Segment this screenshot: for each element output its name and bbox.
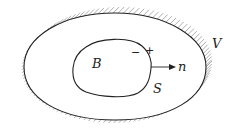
- hatch-line: [111, 7, 119, 15]
- hatch-line: [148, 111, 156, 119]
- hatch-line: [106, 7, 114, 15]
- hatch-line: [139, 113, 147, 121]
- hatch-line: [129, 114, 137, 122]
- label-B: B: [91, 56, 102, 71]
- hatch-line: [91, 9, 99, 17]
- label-S: S: [153, 81, 162, 96]
- hatch-line: [114, 115, 122, 123]
- plus-sign: +: [145, 44, 154, 57]
- label-n: n: [178, 59, 186, 74]
- hatch-line: [124, 115, 132, 123]
- hatch-line: [33, 36, 41, 44]
- hatch-line: [119, 115, 127, 123]
- hatch-line: [187, 92, 195, 100]
- hatch-line: [134, 114, 142, 122]
- diagram-canvas: n B S V − +: [0, 0, 236, 131]
- label-V: V: [212, 36, 223, 51]
- normal-arrow-head: [169, 64, 176, 70]
- hatch-line: [96, 8, 104, 16]
- minus-sign: −: [131, 46, 140, 59]
- hatch-line: [190, 90, 198, 98]
- hatch-line: [101, 7, 109, 15]
- hatch-line: [81, 10, 89, 18]
- hatch-line: [86, 9, 94, 17]
- hatch-line: [144, 112, 152, 120]
